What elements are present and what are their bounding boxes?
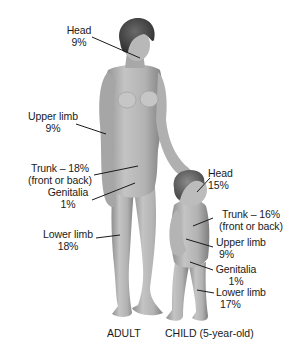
adult-head-name: Head (64, 25, 94, 37)
adult-genitalia-name: Genitalia (46, 187, 90, 199)
child-lower-limb-name: Lower limb (216, 287, 272, 299)
child-head-label: Head 15% (208, 168, 240, 191)
child-caption: CHILD (5-year-old) (165, 327, 254, 339)
child-trunk-label: Trunk – 16% (front or back) (216, 209, 286, 232)
child-figure (166, 170, 209, 321)
adult-upper-limb-value: 9% (25, 123, 81, 135)
adult-upper-limb-label: Upper limb 9% (25, 111, 81, 134)
child-trunk-value: (front or back) (216, 221, 286, 233)
adult-caption: ADULT (107, 327, 141, 339)
adult-lower-limb-label: Lower limb 18% (40, 229, 96, 252)
adult-lower-limb-name: Lower limb (40, 229, 96, 241)
rule-of-nines-diagram: Head 9% Upper limb 9% Trunk – 18% (front… (0, 0, 298, 351)
child-lower-limb-label: Lower limb 17% (216, 287, 272, 310)
child-head-value: 15% (208, 180, 240, 192)
child-upper-limb-name: Upper limb (216, 237, 272, 249)
adult-lower-limb-value: 18% (40, 241, 96, 253)
adult-trunk-name: Trunk – 18% (26, 163, 94, 175)
child-trunk-name: Trunk – 16% (216, 209, 286, 221)
child-genitalia-name: Genitalia (214, 264, 258, 276)
adult-trunk-label: Trunk – 18% (front or back) (26, 163, 94, 186)
adult-head-value: 9% (64, 37, 94, 49)
adult-head-label: Head 9% (64, 25, 94, 48)
adult-upper-limb-name: Upper limb (25, 111, 81, 123)
adult-genitalia-label: Genitalia 1% (46, 187, 90, 210)
adult-right-arm (156, 72, 195, 180)
child-left-leg (166, 262, 189, 321)
child-genitalia-label: Genitalia 1% (214, 264, 258, 287)
child-lower-limb-value: 17% (216, 299, 272, 311)
child-upper-limb-label: Upper limb 9% (216, 237, 272, 260)
adult-genitalia-value: 1% (46, 199, 90, 211)
child-head-name: Head (208, 168, 240, 180)
adult-trunk-value: (front or back) (26, 175, 94, 187)
child-upper-limb-value: 9% (216, 249, 272, 261)
